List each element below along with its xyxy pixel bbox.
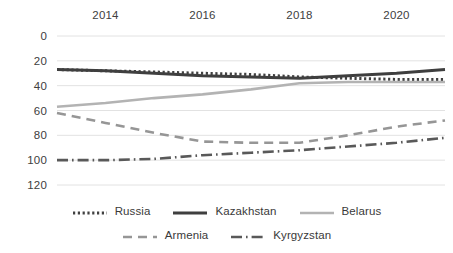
legend-item-kyrgyzstan[interactable]: Kyrgyzstan	[230, 224, 331, 246]
legend-row-1: RussiaKazakhstanBelarus	[0, 200, 453, 222]
legend-row-2: ArmeniaKyrgyzstan	[0, 224, 453, 246]
legend-swatch-belarus	[299, 205, 335, 217]
legend-label: Russia	[115, 205, 151, 217]
legend-item-belarus[interactable]: Belarus	[299, 200, 382, 222]
legend-label: Kyrgyzstan	[273, 229, 331, 241]
legend-swatch-kyrgyzstan	[230, 229, 266, 241]
legend-swatch-armenia	[122, 229, 158, 241]
legend-label: Armenia	[165, 229, 209, 241]
line-chart: 2014201620182020 020406080100120 RussiaK…	[0, 0, 453, 253]
legend-swatch-russia	[72, 205, 108, 217]
chart-legend: RussiaKazakhstanBelarus ArmeniaKyrgyzsta…	[0, 198, 453, 253]
legend-label: Belarus	[342, 205, 382, 217]
plot-area	[0, 0, 453, 200]
series-line-kyrgyzstan	[57, 138, 445, 160]
legend-item-kazakhstan[interactable]: Kazakhstan	[172, 200, 276, 222]
data-series-group	[57, 70, 445, 161]
legend-swatch-kazakhstan	[172, 205, 208, 217]
legend-item-armenia[interactable]: Armenia	[122, 224, 209, 246]
legend-item-russia[interactable]: Russia	[72, 200, 151, 222]
series-line-armenia	[57, 113, 445, 143]
gridlines	[57, 36, 445, 185]
legend-label: Kazakhstan	[215, 205, 276, 217]
